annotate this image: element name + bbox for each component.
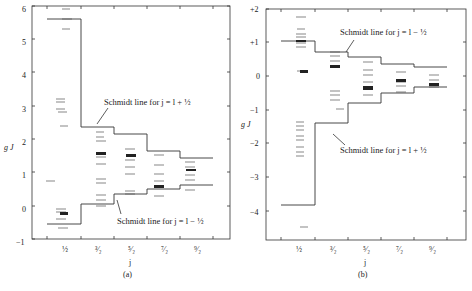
- panel-a-frame: [32, 6, 230, 239]
- ytick: +1: [250, 38, 259, 47]
- ytick: −1: [16, 238, 25, 247]
- annotation-upper: Schmidt line for j = l + ½: [104, 97, 191, 107]
- ytick: 2: [22, 138, 26, 147]
- panel-a-caption: (a): [123, 270, 132, 279]
- annotation-lower: Schmidt line for j = l − ½: [117, 216, 204, 226]
- xtick: ³⁄₂: [95, 245, 102, 254]
- ytick: 5: [22, 38, 26, 47]
- ytick: −1: [250, 106, 259, 115]
- xtick: ½: [296, 245, 302, 254]
- ytick: −4: [250, 208, 259, 217]
- annotation-upper: Schmidt line for j = l − ½: [340, 27, 427, 37]
- panel-b-caption: (b): [358, 270, 368, 279]
- ytick: +2: [250, 5, 259, 14]
- xtick: ⁵⁄₂: [128, 245, 135, 254]
- annotation-arrow: [117, 200, 121, 214]
- ytick: 6: [22, 5, 26, 14]
- annotation-arrow: [333, 134, 345, 145]
- schmidt-line-upper: [47, 19, 213, 158]
- panel-a-yaxis: 6 5 4 3 2 1 0 −1 g J: [4, 5, 230, 247]
- ytick: 0: [22, 205, 26, 214]
- annotation-lower: Schmidt line for j = l + ½: [340, 145, 427, 155]
- panel-b-data-levels: [296, 17, 439, 227]
- panel-b-xaxis: ½ ³⁄₂ ⁵⁄₂ ⁷⁄₂ ⁹⁄₂ j (b): [281, 9, 447, 279]
- xtick: ½: [62, 245, 68, 254]
- ytick: 4: [22, 71, 26, 80]
- xtick: ⁵⁄₂: [363, 245, 370, 254]
- panel-b: +2 +1 0 −1 −2 −3 −4 g J ½ ³⁄₂ ⁵⁄₂ ⁷⁄₂ ⁹⁄…: [241, 5, 466, 279]
- panel-a: 6 5 4 3 2 1 0 −1 g J ½ ³⁄₂ ⁵⁄₂ ⁷⁄₂ ⁹⁄₂ j…: [4, 5, 230, 279]
- panel-a-ylabel: g J: [4, 143, 14, 152]
- ytick: −2: [250, 139, 259, 148]
- xtick: ⁷⁄₂: [396, 245, 403, 254]
- annotation-arrow: [97, 108, 108, 124]
- schmidt-line-upper: [281, 41, 447, 67]
- panel-a-xaxis: ½ ³⁄₂ ⁵⁄₂ ⁷⁄₂ ⁹⁄₂ j (a): [47, 6, 213, 279]
- ytick: 0: [256, 72, 260, 81]
- ytick: −3: [250, 173, 259, 182]
- ytick: 3: [22, 105, 26, 114]
- xtick: ⁹⁄₂: [429, 245, 436, 254]
- xtick: ⁷⁄₂: [161, 245, 168, 254]
- panel-b-xlabel: j: [363, 258, 366, 267]
- ytick: 1: [22, 171, 26, 180]
- panel-a-data-levels: [46, 9, 196, 228]
- figure: 6 5 4 3 2 1 0 −1 g J ½ ³⁄₂ ⁵⁄₂ ⁷⁄₂ ⁹⁄₂ j…: [0, 0, 472, 291]
- panel-b-ylabel: g J: [241, 120, 251, 129]
- xtick: ⁹⁄₂: [194, 245, 201, 254]
- annotation-arrow: [346, 40, 354, 52]
- xtick: ³⁄₂: [330, 245, 337, 254]
- panel-a-xlabel: j: [128, 258, 131, 267]
